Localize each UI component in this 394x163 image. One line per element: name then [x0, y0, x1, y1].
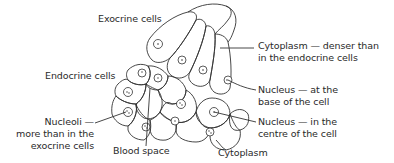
- leader-blood-space: [146, 88, 150, 146]
- label-nucleoli-1: Nucleoli —: [45, 116, 94, 127]
- label-nucleoli-3: exocrine cells: [31, 140, 94, 151]
- label-cytoplasm-denser-1: Cytoplasm — denser than: [258, 40, 379, 51]
- leader-nucleus-centre: [214, 112, 256, 122]
- label-nucleoli-2: more than in the: [16, 128, 94, 139]
- leader-nucleus-base: [228, 80, 256, 90]
- label-exocrine-cells: Exocrine cells: [98, 13, 162, 24]
- label-endocrine-cells: Endocrine cells: [45, 70, 115, 81]
- leader-nucleoli: [95, 112, 126, 123]
- label-nucleus-centre-2: centre of the cell: [258, 128, 337, 139]
- label-nucleus-base-1: Nucleus — at the: [258, 84, 338, 95]
- label-blood-space: Blood space: [113, 145, 170, 156]
- label-cytoplasm: Cytoplasm: [218, 147, 268, 158]
- label-nucleus-base-2: base of the cell: [258, 96, 329, 107]
- label-nucleus-centre-1: Nucleus — in the: [258, 116, 337, 127]
- label-cytoplasm-denser-2: in the endocrine cells: [258, 52, 358, 63]
